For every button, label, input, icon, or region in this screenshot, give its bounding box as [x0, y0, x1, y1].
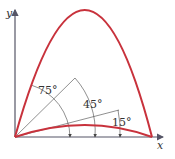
- angle-label-15: 15°: [112, 117, 132, 128]
- angle-label-75: 75°: [38, 85, 58, 96]
- projectile-trajectory-diagram: y x 75° 45° 15°: [0, 0, 175, 159]
- diagram-canvas: [0, 0, 175, 159]
- x-axis-label: x: [157, 140, 163, 151]
- angle-label-45: 45°: [83, 99, 103, 110]
- y-axis-label: y: [6, 8, 12, 19]
